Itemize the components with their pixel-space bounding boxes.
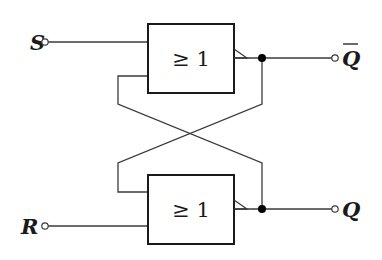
junction-top-dot [258,54,266,62]
output-qbar-label: Q [342,46,360,71]
output-q: Q [332,197,360,222]
input-r: R [20,214,148,239]
output-qbar: Q [332,44,360,71]
gate-bottom-negation-icon [234,200,247,209]
input-r-label: R [20,214,38,239]
output-qbar-terminal [332,55,338,61]
gate-top-negation-icon [234,49,247,58]
gate-top-label: ≥ 1 [172,47,210,71]
junction-bottom-dot [258,205,266,213]
input-s: S [30,30,148,55]
gate-bottom: ≥ 1 [148,175,332,244]
output-q-terminal [332,206,338,212]
gate-top: ≥ 1 [148,24,332,93]
rs-flip-flop-diagram: S R ≥ 1 ≥ 1 Q Q [0,0,382,260]
output-q-label: Q [342,197,360,222]
input-s-terminal [42,39,48,45]
gate-bottom-label: ≥ 1 [172,198,210,222]
input-r-terminal [42,223,48,229]
